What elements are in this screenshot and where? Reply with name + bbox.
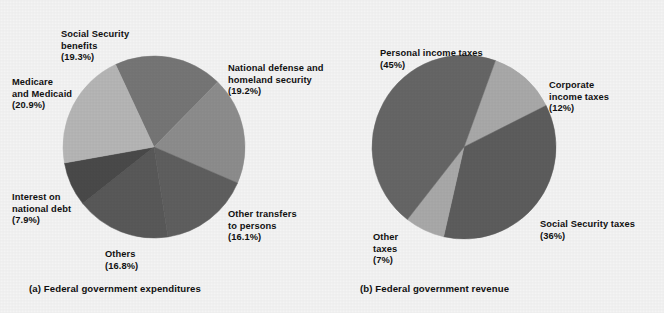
slice-label-national-defense: National defense and homeland security (… [228, 52, 324, 109]
panel-caption-b: (b) Federal government revenue [360, 283, 509, 294]
slice-label-title: Interest on national debt [12, 192, 71, 213]
slice-label-medicare-medicaid: Medicare and Medicaid (20.9%) [12, 66, 72, 123]
slice-label-pct: (16.8%) [105, 261, 138, 272]
slice-label-personal-income-taxes: Personal income taxes (45%) [380, 37, 483, 83]
slice-label-pct: (45%) [380, 60, 483, 71]
panel-federal-revenue: Personal income taxes (45%) Corporate in… [332, 0, 664, 313]
slice-label-title: National defense and homeland security [228, 63, 324, 84]
slice-label-pct: (16.1%) [228, 232, 297, 243]
slice-label-other-taxes: Other taxes (7%) [373, 221, 398, 278]
slice-label-title: Social Security taxes [540, 219, 635, 229]
slice-label-title: Other taxes [373, 232, 398, 253]
slice-label-pct: (19.3%) [61, 52, 129, 63]
slice-label-title: Social Security benefits [61, 29, 129, 50]
slice-label-corporate-income-taxes: Corporate income taxes (12%) [549, 69, 609, 126]
slice-label-pct: (12%) [549, 103, 609, 114]
slice-label-title: Others [105, 249, 136, 259]
slice-label-social-security-taxes: Social Security taxes (36%) [540, 208, 635, 254]
panel-federal-expenditures: Social Security benefits (19.3%) Nationa… [0, 0, 332, 313]
slice-label-pct: (20.9%) [12, 100, 72, 111]
slice-label-interest-national-debt: Interest on national debt (7.9%) [12, 181, 71, 238]
slice-label-title: Medicare and Medicaid [12, 77, 72, 98]
slice-label-title: Corporate income taxes [549, 80, 609, 101]
slice-label-pct: (19.2%) [228, 86, 324, 97]
slice-label-title: Personal income taxes [380, 48, 483, 58]
figure-federal-budget-pies: Social Security benefits (19.3%) Nationa… [0, 0, 664, 313]
slice-label-pct: (36%) [540, 231, 635, 242]
slice-label-pct: (7.9%) [12, 215, 71, 226]
panel-caption-a: (a) Federal government expenditures [29, 283, 201, 294]
slice-label-others: Others (16.8%) [105, 238, 138, 284]
slice-label-other-transfers: Other transfers to persons (16.1%) [228, 198, 297, 255]
slice-label-title: Other transfers to persons [228, 209, 297, 230]
slice-label-pct: (7%) [373, 255, 398, 266]
